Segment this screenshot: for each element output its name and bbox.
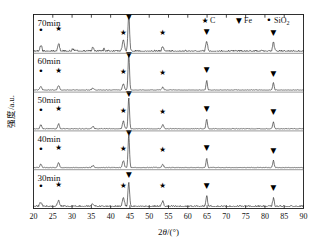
xrd-trace-50min bbox=[34, 98, 304, 129]
peak-marker-Fe: ▼ bbox=[271, 69, 277, 78]
legend-marker-SiO: • bbox=[266, 15, 271, 25]
xrd-trace-60min bbox=[34, 54, 304, 90]
plot-frame bbox=[34, 15, 304, 209]
peak-marker-C: ★ bbox=[120, 28, 127, 37]
legend-label-SiO: SiO2 bbox=[274, 16, 289, 26]
peak-marker-Fe: ▼ bbox=[126, 12, 132, 21]
x-tick-label: 25 bbox=[49, 212, 57, 221]
peak-marker-C: ★ bbox=[159, 107, 166, 116]
x-tick-label: 70 bbox=[222, 212, 230, 221]
x-tick-label: 80 bbox=[261, 212, 269, 221]
x-axis-ticks bbox=[34, 15, 304, 209]
peak-marker-Fe: ▼ bbox=[204, 27, 210, 36]
legend-label-Fe: Fe bbox=[244, 16, 252, 25]
xrd-panel: 50min•★★▼★▼▼ bbox=[34, 89, 304, 129]
xrd-panel: 40min•★★▼★▼▼ bbox=[34, 128, 304, 168]
x-tick-label: 50 bbox=[145, 212, 153, 221]
x-tick-label: 75 bbox=[242, 212, 250, 221]
xrd-trace-40min bbox=[34, 135, 304, 167]
peak-marker-C: ★ bbox=[55, 180, 62, 189]
peak-marker-Fe: ▼ bbox=[204, 143, 210, 152]
peak-marker-Fe: ▼ bbox=[126, 170, 132, 179]
legend-label-C: C bbox=[210, 16, 215, 25]
xrd-trace-30min bbox=[34, 182, 304, 206]
plot-border bbox=[34, 15, 304, 209]
peak-marker-C: ★ bbox=[120, 181, 127, 190]
x-tick-label: 55 bbox=[165, 212, 173, 221]
x-tick-label: 90 bbox=[300, 212, 308, 221]
peak-marker-SiO2: • bbox=[38, 25, 43, 35]
legend: ★C▼Fe•SiO2 bbox=[202, 15, 290, 26]
peak-marker-C: ★ bbox=[159, 68, 166, 77]
peak-marker-SiO2: • bbox=[38, 66, 43, 76]
peak-marker-C: ★ bbox=[120, 106, 127, 115]
xrd-panel: 60min•★★▼★▼▼ bbox=[34, 50, 304, 90]
peak-marker-SiO2: • bbox=[38, 105, 43, 115]
peak-marker-Fe: ▼ bbox=[271, 183, 277, 192]
x-tick-label: 85 bbox=[280, 212, 288, 221]
x-tick-label: 35 bbox=[87, 212, 95, 221]
x-tick-label: 20 bbox=[30, 212, 38, 221]
x-tick-label: 40 bbox=[107, 212, 115, 221]
legend-marker-C: ★ bbox=[202, 16, 209, 25]
peak-marker-C: ★ bbox=[120, 144, 127, 153]
series-label-60min: 60min bbox=[38, 56, 62, 66]
peak-marker-C: ★ bbox=[55, 104, 62, 113]
x-axis-title: 2θ/(°) bbox=[158, 227, 179, 237]
peak-marker-Fe: ▼ bbox=[271, 28, 277, 37]
peak-marker-Fe: ▼ bbox=[271, 107, 277, 116]
x-tick-label: 65 bbox=[203, 212, 211, 221]
y-axis-title: 强度/a.u. bbox=[6, 95, 16, 128]
xrd-panel: 30min•★★▼★▼▼ bbox=[34, 170, 304, 206]
x-tick-label: 60 bbox=[184, 212, 192, 221]
peak-marker-SiO2: • bbox=[38, 144, 43, 154]
peak-marker-SiO2: • bbox=[38, 181, 43, 191]
legend-marker-Fe: ▼ bbox=[236, 16, 242, 25]
x-tick-label: 30 bbox=[68, 212, 76, 221]
peak-marker-Fe: ▼ bbox=[204, 181, 210, 190]
peak-marker-C: ★ bbox=[55, 143, 62, 152]
panels-group: 70min•★★▼★▼▼60min•★★▼★▼▼50min•★★▼★▼▼40mi… bbox=[34, 12, 304, 207]
peak-marker-C: ★ bbox=[159, 28, 166, 37]
peak-marker-Fe: ▼ bbox=[126, 50, 132, 59]
peak-marker-Fe: ▼ bbox=[204, 104, 210, 113]
peak-marker-Fe: ▼ bbox=[271, 146, 277, 155]
x-axis-tick-labels: 202530354045505560657075808590 bbox=[30, 212, 308, 221]
x-tick-label: 45 bbox=[126, 212, 134, 221]
peak-marker-Fe: ▼ bbox=[204, 65, 210, 74]
peak-marker-Fe: ▼ bbox=[126, 128, 132, 137]
xrd-figure: 70min•★★▼★▼▼60min•★★▼★▼▼50min•★★▼★▼▼40mi… bbox=[0, 0, 313, 250]
peak-marker-C: ★ bbox=[55, 24, 62, 33]
peak-marker-Fe: ▼ bbox=[126, 89, 132, 98]
peak-marker-C: ★ bbox=[55, 66, 62, 75]
xrd-trace-70min bbox=[34, 14, 304, 51]
peak-marker-C: ★ bbox=[159, 181, 166, 190]
peak-marker-C: ★ bbox=[159, 145, 166, 154]
xrd-plot: 70min•★★▼★▼▼60min•★★▼★▼▼50min•★★▼★▼▼40mi… bbox=[0, 0, 313, 250]
peak-marker-C: ★ bbox=[120, 67, 127, 76]
